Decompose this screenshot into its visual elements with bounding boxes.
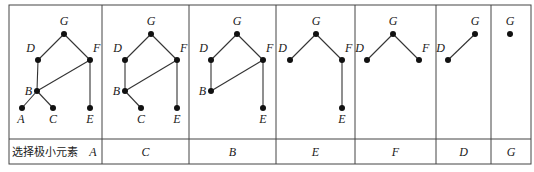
- selected-element-6: D: [458, 145, 468, 159]
- hasse-diagram-step-3: GDFBE: [198, 14, 274, 126]
- node-B: [208, 88, 214, 94]
- edge-G-F: [316, 34, 342, 60]
- node-F: [87, 57, 93, 63]
- edge-G-F: [237, 34, 263, 60]
- node-F: [339, 57, 345, 63]
- node-F: [260, 57, 266, 63]
- node-label-E: E: [172, 112, 181, 126]
- node-E: [174, 105, 180, 111]
- node-label-B: B: [25, 84, 33, 98]
- node-F: [416, 57, 422, 63]
- hasse-diagram-step-7: G: [506, 14, 515, 37]
- node-A: [19, 105, 25, 111]
- node-D: [208, 57, 214, 63]
- node-D: [364, 57, 370, 63]
- node-G: [390, 31, 396, 37]
- node-label-F: F: [92, 41, 101, 55]
- node-label-F: F: [421, 41, 430, 55]
- node-C: [138, 105, 144, 111]
- node-label-G: G: [389, 14, 398, 28]
- edge-F-B: [37, 60, 90, 91]
- node-label-E: E: [258, 112, 267, 126]
- node-label-D: D: [277, 41, 287, 55]
- node-label-B: B: [199, 84, 207, 98]
- edge-G-D: [290, 34, 316, 60]
- edge-D-B: [37, 60, 38, 91]
- node-label-G: G: [233, 14, 242, 28]
- node-G: [507, 31, 513, 37]
- selection-row: 选择极小元素 ACBEFDG: [12, 145, 516, 159]
- node-label-B: B: [113, 84, 121, 98]
- node-label-G: G: [60, 14, 69, 28]
- row-label: 选择极小元素: [12, 145, 78, 159]
- edge-F-B: [211, 60, 263, 91]
- hasse-diagram-step-2: GDFBCE: [112, 14, 188, 126]
- minimal-element-selection-diagram: GDFBACEGDFBCEGDFBEGDFEGDFGDG 选择极小元素 ACBE…: [0, 0, 534, 172]
- hasse-diagram-step-4: GDFE: [277, 14, 353, 126]
- table-grid: [9, 5, 531, 164]
- edge-G-F: [64, 34, 90, 60]
- node-E: [339, 105, 345, 111]
- node-B: [34, 88, 40, 94]
- node-G: [61, 31, 67, 37]
- node-label-F: F: [344, 41, 353, 55]
- selected-element-5: F: [391, 145, 400, 159]
- node-label-C: C: [49, 112, 58, 126]
- node-D: [35, 57, 41, 63]
- selected-element-1: A: [88, 145, 97, 159]
- selected-element-2: C: [141, 145, 150, 159]
- node-label-D: D: [112, 41, 122, 55]
- edge-G-D: [367, 34, 393, 60]
- node-label-F: F: [265, 41, 274, 55]
- hasse-diagram-step-6: GD: [435, 14, 479, 63]
- node-D: [287, 57, 293, 63]
- edge-G-D: [125, 34, 151, 60]
- node-label-E: E: [85, 112, 94, 126]
- node-label-C: C: [137, 112, 146, 126]
- node-label-A: A: [16, 112, 25, 126]
- node-B: [122, 88, 128, 94]
- node-G: [148, 31, 154, 37]
- edge-B-C: [37, 91, 53, 108]
- node-F: [174, 57, 180, 63]
- node-label-E: E: [337, 112, 346, 126]
- hasse-diagram-step-5: GDF: [354, 14, 430, 63]
- node-label-G: G: [471, 14, 480, 28]
- node-label-D: D: [25, 41, 35, 55]
- node-C: [50, 105, 56, 111]
- node-E: [87, 105, 93, 111]
- node-label-D: D: [354, 41, 364, 55]
- node-D: [122, 57, 128, 63]
- node-G: [313, 31, 319, 37]
- selected-element-3: B: [229, 145, 237, 159]
- edge-G-F: [393, 34, 419, 60]
- node-G: [234, 31, 240, 37]
- node-label-G: G: [147, 14, 156, 28]
- node-D: [445, 57, 451, 63]
- hasse-diagrams: GDFBACEGDFBCEGDFBEGDFEGDFGDG: [16, 14, 514, 126]
- edge-B-C: [125, 91, 141, 108]
- edge-G-D: [448, 34, 475, 60]
- node-G: [472, 31, 478, 37]
- node-E: [260, 105, 266, 111]
- node-label-D: D: [198, 41, 208, 55]
- selected-element-4: E: [311, 145, 320, 159]
- table-border: [9, 5, 531, 164]
- edge-F-B: [125, 60, 177, 91]
- node-label-F: F: [179, 41, 188, 55]
- node-label-G: G: [506, 14, 515, 28]
- selected-element-7: G: [507, 145, 516, 159]
- edge-G-D: [211, 34, 237, 60]
- node-label-D: D: [435, 41, 445, 55]
- node-label-G: G: [312, 14, 321, 28]
- hasse-diagram-step-1: GDFBACE: [16, 14, 101, 126]
- edge-G-F: [151, 34, 177, 60]
- edge-G-D: [38, 34, 64, 60]
